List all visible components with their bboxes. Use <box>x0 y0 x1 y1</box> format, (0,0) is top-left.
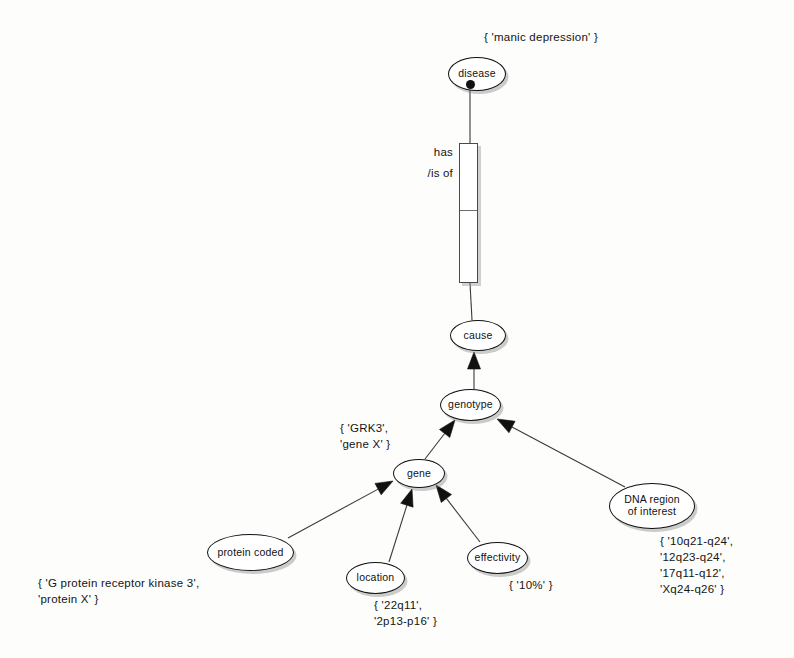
edge-box-to-cause <box>470 283 472 320</box>
value-set-dnaregion-values: { '10q21-q24', '12q23-q24', '17q11-q12',… <box>660 534 733 597</box>
node-location[interactable]: location <box>346 562 405 594</box>
edge-genotype-to-cause <box>468 352 481 389</box>
node-gene[interactable]: gene <box>393 459 445 488</box>
arrowhead-protein-to-gene <box>375 481 393 495</box>
node-dnaregion-label: DNA region of interest <box>622 494 682 518</box>
value-set-effectivity-values: { '10%' } <box>509 578 553 594</box>
node-genotype[interactable]: genotype <box>440 389 501 421</box>
arrowhead-effectivity-to-gene <box>436 485 452 502</box>
edge-gene-to-genotype <box>425 420 455 459</box>
diagram-canvas: diseasecausegenotypegeneprotein codedloc… <box>0 0 794 658</box>
edge-effectivity-to-gene <box>436 485 480 542</box>
value-set-gene-values: { 'GRK3', 'gene X' } <box>340 421 390 453</box>
node-genotype-label: genotype <box>446 399 495 411</box>
relationship-box-divider <box>460 210 477 211</box>
value-set-disease-values: { 'manic depression' } <box>484 30 598 46</box>
arrowhead-dnaregion-to-genotype <box>497 419 515 433</box>
node-effectivity[interactable]: effectivity <box>467 542 528 574</box>
node-cause-label: cause <box>461 330 494 342</box>
relationship-label-has-is-of: has /is of <box>411 142 453 185</box>
node-protein-label: protein coded <box>215 547 285 559</box>
value-set-protein-values: { 'G protein receptor kinase 3', 'protei… <box>38 576 199 608</box>
node-disease-label: disease <box>456 68 498 80</box>
arrowhead-gene-to-genotype <box>439 420 455 437</box>
node-protein[interactable]: protein coded <box>207 534 294 571</box>
edge-protein-to-gene <box>288 481 393 538</box>
node-disease[interactable]: disease <box>448 57 506 91</box>
edge-dnaregion-to-genotype <box>497 419 625 487</box>
node-gene-label: gene <box>405 468 433 480</box>
edge-location-to-gene <box>389 489 413 562</box>
arrowhead-location-to-gene <box>401 489 413 507</box>
node-cause[interactable]: cause <box>450 320 506 351</box>
relationship-box-has-is-of[interactable] <box>459 143 478 283</box>
value-set-location-values: { '22q11', '2p13-p16' } <box>374 598 437 630</box>
disease-connector-dot <box>466 80 475 89</box>
node-location-label: location <box>355 572 397 584</box>
node-effectivity-label: effectivity <box>473 552 523 564</box>
node-dnaregion[interactable]: DNA region of interest <box>609 483 695 529</box>
arrowhead-genotype-to-cause <box>468 352 481 369</box>
